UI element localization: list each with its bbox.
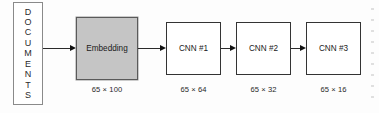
documents-letter: O xyxy=(24,17,31,27)
documents-letter: S xyxy=(25,90,31,100)
documents-letter: N xyxy=(25,69,32,79)
documents-letter: U xyxy=(25,38,32,48)
arrow-cnn-2-to-cnn-3 xyxy=(291,47,306,50)
cnn-2-dimension-caption: 65 × 32 xyxy=(236,85,291,94)
documents-letter: C xyxy=(25,27,32,37)
documents-letter: T xyxy=(25,80,31,90)
cnn-2-label: CNN #2 xyxy=(249,44,278,53)
arrow-shaft xyxy=(138,48,161,49)
cnn-3-label: CNN #3 xyxy=(319,44,348,53)
cnn-3-dimension-caption: 65 × 16 xyxy=(306,85,361,94)
documents-letter: E xyxy=(25,59,31,69)
documents-letter: D xyxy=(25,7,32,17)
pipeline-diagram: D O C U M E N T S Embedding CNN #1 CNN #… xyxy=(0,0,379,113)
cnn-1-label: CNN #1 xyxy=(179,44,208,53)
arrow-shaft xyxy=(43,48,71,49)
cnn-1-box: CNN #1 xyxy=(166,22,221,75)
documents-label: D O C U M E N T S xyxy=(24,7,32,101)
embedding-label: Embedding xyxy=(86,44,127,53)
embedding-dimension-caption: 65 × 100 xyxy=(76,85,138,94)
cnn-3-box: CNN #3 xyxy=(306,22,361,75)
arrow-embedding-to-cnn-1 xyxy=(138,47,166,50)
arrow-documents-to-embedding xyxy=(43,47,76,50)
cnn-1-dimension-caption: 65 × 64 xyxy=(166,85,221,94)
documents-box: D O C U M E N T S xyxy=(13,2,43,105)
embedding-box: Embedding xyxy=(76,17,138,80)
scan-artifact-edge xyxy=(371,8,374,103)
documents-letter: M xyxy=(24,48,32,58)
cnn-2-box: CNN #2 xyxy=(236,22,291,75)
arrow-cnn-1-to-cnn-2 xyxy=(221,47,236,50)
